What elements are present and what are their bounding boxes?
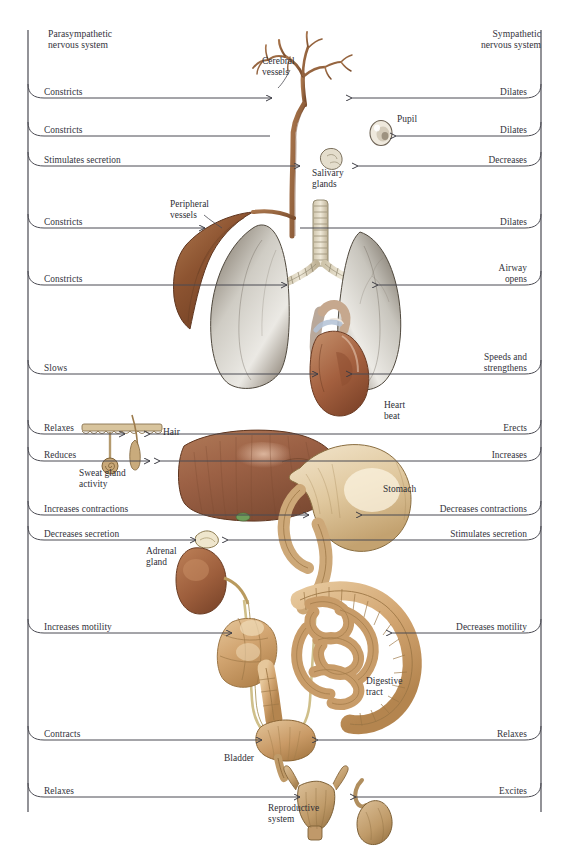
sympathetic-effect-bladder: Relaxes [497,729,527,740]
parasympathetic-effect-adrenal-gland: Decreases secretion [44,529,119,540]
parasympathetic-title: Parasympathetic nervous system [48,28,112,50]
left-lung-illustration [211,225,290,389]
parasympathetic-effect-heart: Slows [44,363,67,374]
pupil-illustration [370,121,392,146]
sympathetic-effect-peripheral-vessels: Dilates [500,217,527,228]
sympathetic-title: Sympathetic nervous system [481,28,541,50]
connector-lines-layer [0,0,569,860]
organ-label-digestive-tract: Digestive tract [366,676,402,697]
organ-label-sweat-gland: Sweat gland activity [79,468,126,489]
parasympathetic-effect-hair: Relaxes [44,423,74,434]
parasympathetic-effect-sweat-gland: Reduces [44,450,76,461]
sympathetic-effect-hair: Erects [503,423,527,434]
parasympathetic-effect-salivary-glands: Stimulates secretion [44,155,121,166]
organ-label-stomach: Stomach [383,484,416,495]
organ-label-reproductive-system: Reproductive system [268,803,319,824]
organ-label-pupil: Pupil [397,114,417,125]
parasympathetic-effect-stomach: Increases contractions [44,504,128,515]
parasympathetic-effect-airway: Constricts [44,274,83,285]
organ-label-adrenal-gland: Adrenal gland [146,546,177,567]
sympathetic-effect-airway: Airway opens [499,263,527,284]
organ-label-cerebral-vessels: Cerebral vessels [262,56,295,77]
gallbladder-illustration [236,513,250,521]
organ-label-salivary-glands: Salivary glands [312,168,344,189]
small-intestine-illustration [297,602,374,705]
sympathetic-effect-digestive-tract: Decreases motility [456,622,527,633]
sympathetic-effect-salivary-glands: Decreases [489,155,527,166]
sympathetic-effect-stomach: Decreases contractions [440,504,527,515]
sympathetic-effect-pupil: Dilates [500,125,527,136]
sympathetic-effect-reproductive-system: Excites [499,786,527,797]
organ-label-bladder: Bladder [224,753,254,764]
parasympathetic-effect-digestive-tract: Increases motility [44,622,112,633]
parasympathetic-effect-pupil: Constricts [44,125,83,136]
sympathetic-effect-adrenal-gland: Stimulates secretion [450,529,527,540]
parasympathetic-effect-peripheral-vessels: Constricts [44,217,83,228]
salivary-glands-illustration [320,148,342,169]
parasympathetic-effect-bladder: Contracts [44,729,80,740]
autonomic-nervous-system-diagram: ConstrictsDilatesConstrictsDilatesStimul… [0,0,569,860]
organ-illustration-group [82,32,412,845]
testis-illustration [355,780,392,845]
organ-label-hair: Hair [163,427,180,438]
hair-follicle-illustration [82,415,162,474]
sympathetic-effect-heart: Speeds and strengthens [484,352,527,373]
parasympathetic-effect-reproductive-system: Relaxes [44,786,74,797]
parasympathetic-effect-cerebral-vessels: Constricts [44,87,83,98]
adrenal-gland-illustration [195,531,218,548]
bracket-lines-group [28,30,541,812]
kidney-illustration [176,548,248,614]
organ-label-peripheral-vessels: Peripheral vessels [170,199,209,220]
sympathetic-effect-sweat-gland: Increases [492,450,527,461]
organ-label-heart-beat: Heart beat [384,400,405,421]
sympathetic-effect-cerebral-vessels: Dilates [500,87,527,98]
